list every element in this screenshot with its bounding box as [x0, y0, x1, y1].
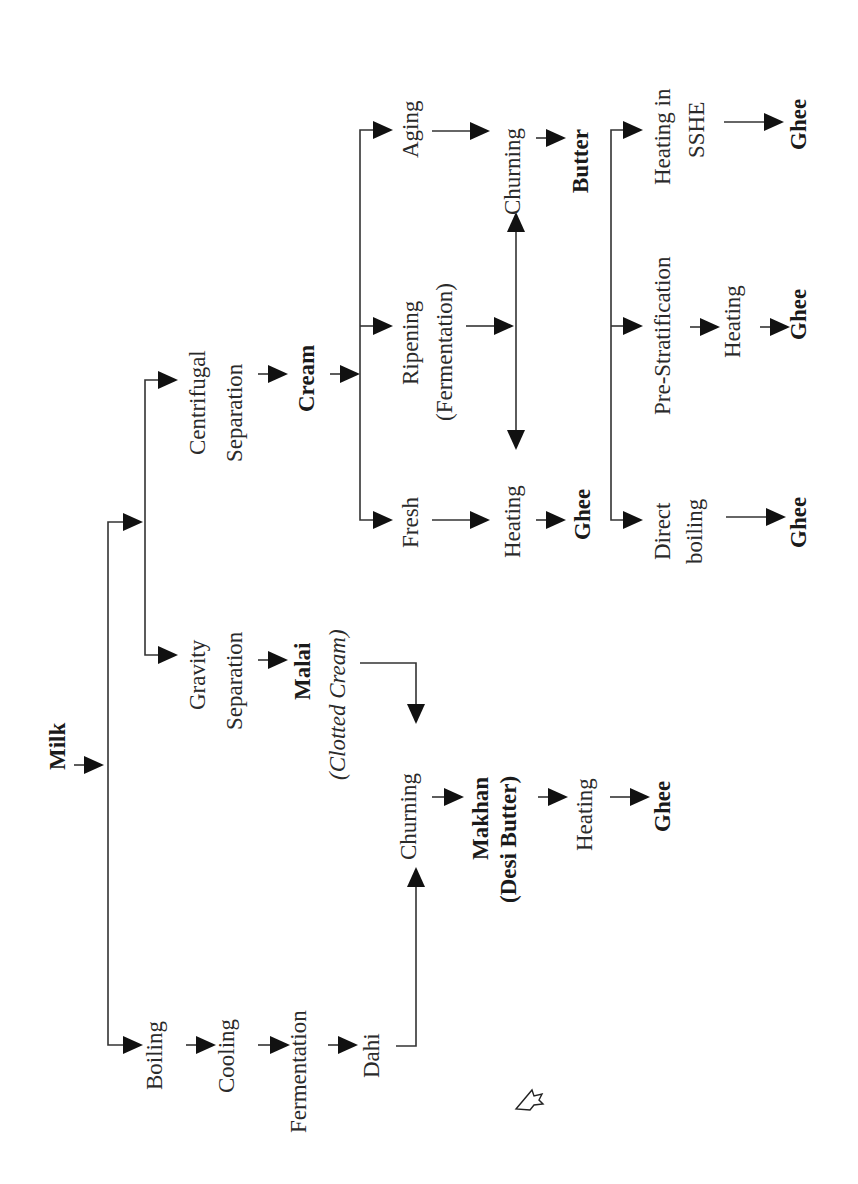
fresh-heating: Heating [500, 485, 525, 558]
milk-trunk-line [108, 522, 125, 1045]
malai-note: (Clotted Cream) [325, 629, 350, 780]
product-malai: Malai [290, 642, 315, 700]
arrow-right-icon [158, 371, 178, 389]
arrow-right-icon [546, 129, 566, 147]
product-butter: Butter [568, 129, 593, 193]
arrow-right-icon [123, 1036, 143, 1054]
arrow-down-icon [407, 704, 425, 724]
arrow-right-icon [470, 122, 490, 140]
step-boiling: Boiling [142, 1020, 167, 1090]
sshe-ghee: Ghee [786, 99, 811, 150]
product-makhan: Makhan [468, 777, 493, 860]
prestrat-label: Pre-Stratification [650, 256, 675, 415]
arrow-right-icon [158, 646, 178, 664]
gravity-line1: Gravity [185, 639, 210, 710]
step-fermentation: Fermentation [286, 1010, 311, 1133]
arrow-right-icon [84, 756, 104, 774]
arrow-right-icon [494, 317, 514, 335]
arrow-right-icon [340, 365, 360, 383]
dahi-to-churning-line [396, 887, 416, 1046]
mouse-pointer-icon [516, 1090, 543, 1110]
arrow-right-icon [268, 365, 288, 383]
sshe-line1: Heating in [650, 88, 675, 185]
arrow-right-icon [444, 788, 464, 806]
ripening-line2: (Fermentation) [432, 283, 457, 421]
arrow-right-icon [196, 1036, 216, 1054]
milk-label: Milk [45, 723, 70, 770]
arrow-right-icon [373, 317, 393, 335]
product-desi-butter: (Desi Butter) [496, 776, 521, 903]
arrow-right-icon [470, 511, 490, 529]
direct-line2: boiling [682, 498, 707, 564]
arrow-right-icon [700, 318, 720, 336]
arrow-right-icon [766, 508, 786, 526]
arrow-right-icon [268, 651, 288, 669]
butter-trunk-line [611, 130, 625, 520]
ghee-flowchart: Milk Boiling Cooling Fermentation Dahi G… [0, 0, 858, 1184]
cream-trunk-line [360, 130, 375, 520]
arrow-right-icon [623, 317, 643, 335]
arrow-right-icon [623, 511, 643, 529]
direct-line1: Direct [650, 502, 675, 560]
product-cream: Cream [294, 345, 319, 412]
makhan-heating: Heating [572, 778, 597, 851]
arrow-up-icon [407, 867, 425, 887]
cream-fresh: Fresh [398, 496, 423, 548]
cream-churning: Churning [500, 128, 525, 215]
node-milk: Milk [45, 723, 70, 770]
arrow-right-icon [546, 511, 566, 529]
arrow-right-icon [338, 1036, 358, 1054]
arrow-right-icon [123, 513, 143, 531]
ripening-line1: Ripening [398, 300, 423, 385]
malai-to-churning-line [360, 663, 416, 704]
arrow-right-icon [373, 511, 393, 529]
direct-ghee: Ghee [786, 497, 811, 548]
separation-trunk-line [145, 380, 160, 655]
arrow-right-icon [548, 788, 568, 806]
gravity-line2: Separation [222, 631, 247, 730]
prestrat-heating: Heating [720, 285, 745, 358]
prestrat-ghee: Ghee [786, 289, 811, 340]
centrifugal-line2: Separation [222, 363, 247, 462]
fresh-ghee: Ghee [570, 489, 595, 540]
arrow-right-icon [764, 113, 784, 131]
step-cooling: Cooling [214, 1018, 239, 1093]
step-dahi: Dahi [359, 1033, 384, 1078]
centrifugal-line1: Centrifugal [185, 350, 210, 455]
sshe-line2: SSHE [684, 102, 709, 158]
arrow-down-icon [507, 430, 525, 450]
makhan-churning: Churning [396, 773, 421, 860]
cream-aging: Aging [398, 100, 423, 158]
arrow-right-icon [373, 121, 393, 139]
arrow-right-icon [623, 121, 643, 139]
makhan-ghee: Ghee [650, 781, 675, 832]
arrow-right-icon [630, 788, 650, 806]
